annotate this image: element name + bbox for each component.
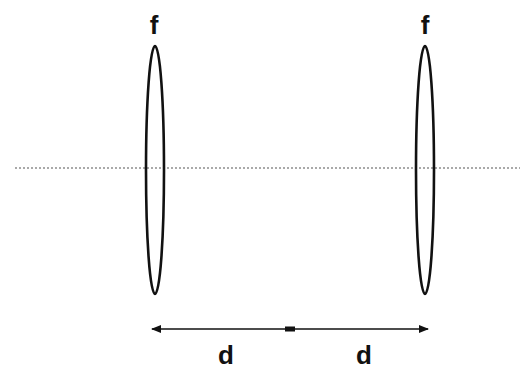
lens-left	[146, 46, 164, 294]
two-lens-diagram: f f d d	[0, 0, 520, 376]
distance-label-left: d	[218, 342, 234, 368]
lens-left-focal-label: f	[150, 12, 159, 38]
lens-right-focal-label: f	[421, 12, 430, 38]
dimension-midpoint-mark	[285, 327, 295, 332]
diagram-canvas	[0, 0, 520, 376]
distance-label-right: d	[356, 342, 372, 368]
lens-right	[416, 46, 434, 294]
